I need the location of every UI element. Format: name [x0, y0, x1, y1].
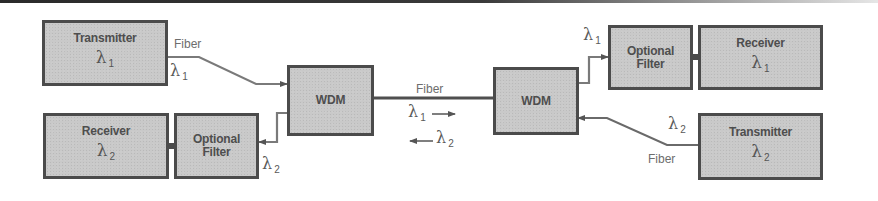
- wire-wdm-to-filter-right: [578, 57, 608, 83]
- lambda-label-rx2: λ2: [262, 154, 280, 175]
- wdm-left-title: WDM: [316, 94, 345, 107]
- filter-left-line2: Filter: [202, 146, 230, 159]
- optional-filter-right-block: Optional Filter: [608, 25, 693, 90]
- receiver-2-title: Receiver: [82, 125, 130, 138]
- wdm-right-block: WDM: [493, 67, 579, 135]
- transmitter-2-wavelength: λ2: [751, 141, 769, 168]
- transmitter-1-title: Transmitter: [73, 32, 136, 45]
- lambda-label-rx1: λ1: [583, 25, 601, 46]
- lambda-label-tx1: λ1: [170, 61, 188, 82]
- optional-filter-left-block: Optional Filter: [174, 113, 259, 179]
- receiver-1-block: Receiver λ1: [698, 25, 823, 90]
- lambda-forward-label: λ1: [408, 102, 426, 123]
- transmitter-1-wavelength: λ1: [96, 47, 114, 74]
- receiver-2-wavelength: λ2: [97, 140, 115, 167]
- lambda-backward-label: λ2: [436, 128, 454, 149]
- transmitter-2-block: Transmitter λ2: [698, 113, 823, 180]
- fiber-label-center: Fiber: [416, 82, 443, 96]
- wire-wdm-to-filter-left: [259, 113, 287, 142]
- fiber-label-tx1: Fiber: [174, 37, 201, 51]
- wdm-left-block: WDM: [287, 65, 374, 136]
- lambda-label-tx2: λ2: [668, 114, 686, 135]
- receiver-1-wavelength: λ1: [751, 52, 769, 79]
- fiber-label-tx2: Fiber: [648, 152, 675, 166]
- filter-right-line1: Optional: [627, 45, 674, 58]
- transmitter-1-block: Transmitter λ1: [42, 20, 168, 86]
- transmitter-2-title: Transmitter: [729, 126, 792, 139]
- receiver-1-title: Receiver: [736, 37, 784, 50]
- filter-right-line2: Filter: [636, 58, 664, 71]
- wdm-right-title: WDM: [521, 95, 550, 108]
- receiver-2-block: Receiver λ2: [43, 113, 169, 179]
